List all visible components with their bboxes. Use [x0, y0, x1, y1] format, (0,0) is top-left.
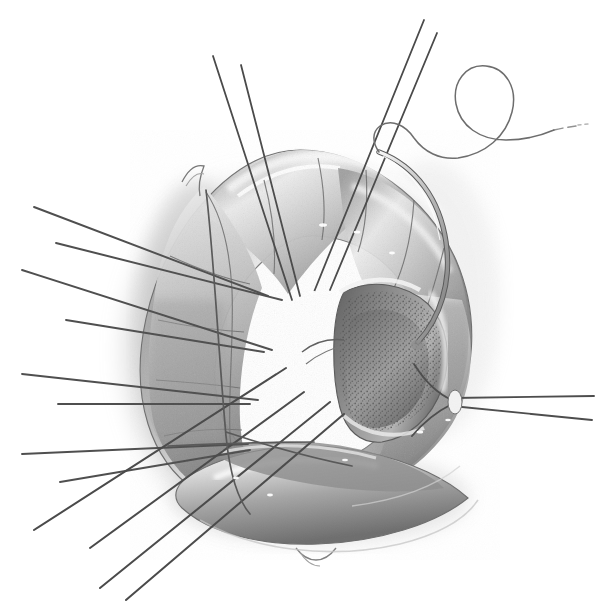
illustration-canvas	[0, 0, 599, 602]
graphite-grain-overlay	[130, 130, 500, 560]
surgical-illustration-figure: aortic valve annulus with implanted sewi…	[0, 0, 599, 602]
